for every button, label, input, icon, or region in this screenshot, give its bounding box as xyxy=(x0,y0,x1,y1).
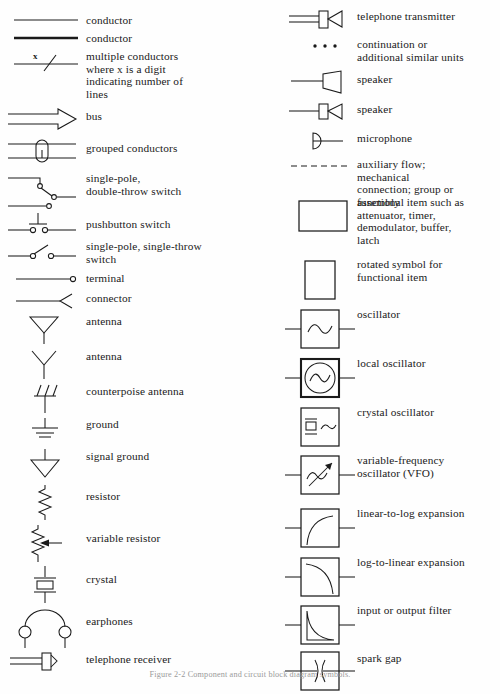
symbol-row-multiple-conductors: x multiple conductors where x is a digit… xyxy=(0,50,270,102)
linear-to-log-expansion-icon xyxy=(285,505,355,551)
symbol-row-crystal-oscillator: crystal oscillator xyxy=(285,404,500,450)
symbol-label: counterpoise antenna xyxy=(86,385,271,398)
symbol-row-variable-resistor: variable resistor xyxy=(0,524,270,562)
figure-caption: Figure 2-2 Component and circuit block d… xyxy=(0,670,500,679)
speaker-horn-icon xyxy=(285,70,355,94)
symbol-row-crystal: crystal xyxy=(0,565,270,603)
local-oscillator-icon xyxy=(285,355,355,401)
symbol-label: continuation or additional similar units xyxy=(357,38,500,63)
symbol-row-earphones: earphones xyxy=(0,607,270,647)
symbol-label: spark gap xyxy=(357,652,500,665)
symbol-row-terminal: terminal xyxy=(0,272,270,290)
resistor-icon xyxy=(0,484,82,522)
symbol-label: linear-to-log expansion xyxy=(357,507,500,520)
symbol-label: microphone xyxy=(357,132,500,145)
symbol-label: earphones xyxy=(86,615,271,628)
symbol-label: crystal oscillator xyxy=(357,406,500,419)
symbol-row-functional-item: functional item such as attenuator, time… xyxy=(285,196,500,254)
signal-ground-icon xyxy=(0,447,82,479)
auxiliary-flow-dashed-icon xyxy=(285,158,355,174)
symbol-row-speaker-boxed: speaker xyxy=(285,100,500,126)
pushbutton-switch-icon xyxy=(0,211,82,237)
connector-icon xyxy=(0,292,82,310)
antenna-dipole-icon xyxy=(0,348,82,380)
symbol-row-speaker-horn: speaker xyxy=(285,70,500,96)
symbol-label: telephone transmitter xyxy=(357,10,500,23)
crystal-oscillator-icon xyxy=(285,404,355,450)
input-or-output-filter-icon xyxy=(285,602,355,648)
symbol-label: functional item such as attenuator, time… xyxy=(357,196,500,246)
rotated-functional-item-box-icon xyxy=(285,258,355,302)
symbol-label: antenna xyxy=(86,350,271,363)
symbol-label: speaker xyxy=(357,103,500,116)
antenna-triangle-icon xyxy=(0,313,82,345)
symbol-row-pushbutton-switch: pushbutton switch xyxy=(0,211,270,237)
symbol-label: signal ground xyxy=(86,450,271,463)
symbol-row-antenna-triangle: antenna xyxy=(0,313,270,345)
speaker-boxed-icon xyxy=(285,100,355,124)
terminal-icon xyxy=(0,272,82,286)
microphone-icon xyxy=(285,130,355,152)
symbol-label: conductor xyxy=(86,32,271,45)
symbol-label: terminal xyxy=(86,272,271,285)
symbol-row-antenna-dipole: antenna xyxy=(0,348,270,380)
symbol-row-vfo: variable-frequency oscillator (VFO) xyxy=(285,452,500,502)
counterpoise-antenna-icon xyxy=(0,382,82,414)
symbol-label: oscillator xyxy=(357,308,500,321)
symbol-row-local-oscillator: local oscillator xyxy=(285,355,500,401)
symbol-label: single-pole, double-throw switch xyxy=(86,172,271,197)
symbol-row-signal-ground: signal ground xyxy=(0,447,270,481)
symbol-label: crystal xyxy=(86,573,271,586)
ground-icon xyxy=(0,416,82,442)
symbol-label: rotated symbol for functional item xyxy=(357,258,500,283)
conductor-heavy-line-icon xyxy=(0,32,82,44)
svg-text:x: x xyxy=(33,51,38,61)
symbol-row-bus: bus xyxy=(0,107,270,133)
functional-item-box-icon xyxy=(285,196,355,236)
symbol-row-log-to-linear: log-to-linear expansion xyxy=(285,554,500,600)
symbol-label: log-to-linear expansion xyxy=(357,556,500,569)
symbol-label: ground xyxy=(86,418,271,431)
continuation-dots-icon xyxy=(285,38,355,54)
symbol-label: local oscillator xyxy=(357,357,500,370)
symbol-row-resistor: resistor xyxy=(0,484,270,520)
symbol-row-conductor-heavy: conductor xyxy=(0,32,270,46)
symbol-row-continuation: continuation or additional similar units xyxy=(285,38,500,66)
symbol-row-linear-to-log: linear-to-log expansion xyxy=(285,505,500,551)
symbol-row-ground: ground xyxy=(0,416,270,444)
symbol-label: bus xyxy=(86,110,271,123)
symbol-row-filter: input or output filter xyxy=(285,602,500,648)
symbol-row-telephone-transmitter: telephone transmitter xyxy=(285,8,500,34)
symbol-label: grouped conductors xyxy=(86,142,271,155)
symbol-row-oscillator: oscillator xyxy=(285,306,500,352)
variable-frequency-oscillator-icon xyxy=(285,452,355,498)
symbol-row-connector: connector xyxy=(0,292,270,312)
symbol-row-grouped-conductors: grouped conductors xyxy=(0,136,270,166)
multiple-conductors-slash-icon: x xyxy=(0,50,82,74)
symbol-label: connector xyxy=(86,292,271,305)
conductor-line-icon xyxy=(0,14,82,26)
single-pole-double-throw-switch-icon xyxy=(0,172,82,210)
symbol-label: antenna xyxy=(86,315,271,328)
symbol-label: resistor xyxy=(86,490,271,503)
symbol-label: telephone receiver xyxy=(86,653,271,666)
symbol-label: single-pole, single-throw switch xyxy=(86,240,271,265)
symbol-label: input or output filter xyxy=(357,604,500,617)
oscillator-icon xyxy=(285,306,355,352)
symbol-label: speaker xyxy=(357,73,500,86)
symbol-row-conductor-line: conductor xyxy=(0,14,270,28)
symbol-row-spdt-switch: single-pole, double-throw switch xyxy=(0,172,270,208)
symbol-row-rotated-functional-item: rotated symbol for functional item xyxy=(285,258,500,304)
variable-resistor-icon xyxy=(0,524,82,564)
symbol-label: multiple conductors where x is a digit i… xyxy=(86,50,271,100)
symbol-label: variable resistor xyxy=(86,532,271,545)
symbol-label: conductor xyxy=(86,14,271,27)
telephone-transmitter-icon xyxy=(285,8,355,32)
single-pole-single-throw-switch-icon xyxy=(0,240,82,262)
bus-arrow-icon xyxy=(0,107,82,131)
symbol-row-microphone: microphone xyxy=(285,130,500,154)
symbol-label: variable-frequency oscillator (VFO) xyxy=(357,454,500,479)
symbol-row-spst-switch: single-pole, single-throw switch xyxy=(0,240,270,270)
symbol-row-counterpoise-antenna: counterpoise antenna xyxy=(0,382,270,414)
